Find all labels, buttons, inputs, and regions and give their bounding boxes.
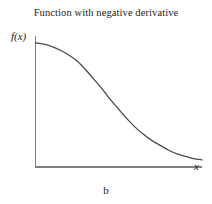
function-curve: [36, 43, 203, 160]
plot-area: [0, 0, 212, 204]
figure-caption: b: [0, 184, 212, 196]
figure-panel: Function with negative derivative f(x) x…: [0, 0, 212, 204]
x-axis-label: x: [194, 160, 199, 172]
axes-group: [35, 36, 202, 168]
